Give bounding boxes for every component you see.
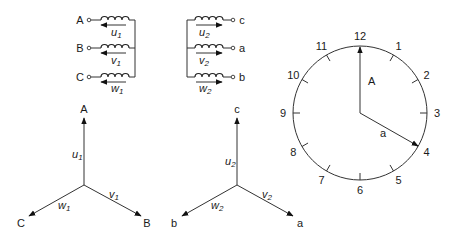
- clock-number-8: 8: [290, 146, 296, 158]
- svg-text:v2: v2: [199, 54, 210, 68]
- terminal-B: [87, 46, 91, 50]
- clock-number-4: 4: [424, 146, 430, 158]
- phasor-b-arrow: [182, 185, 237, 216]
- phasor-tip-c: c: [234, 103, 240, 115]
- svg-text:u2: u2: [225, 155, 236, 169]
- clock-hand-a: [360, 113, 418, 146]
- terminal-label-A: A: [76, 14, 84, 26]
- clock-number-11: 11: [316, 40, 327, 52]
- clock-number-5: 5: [395, 174, 401, 186]
- clock-tick: [327, 55, 331, 61]
- terminal-A: [87, 18, 91, 22]
- clock-number-7: 7: [318, 174, 324, 186]
- clock-number-12: 12: [354, 30, 366, 42]
- clock-tick: [390, 165, 394, 171]
- primary-windings: A u1 B v1 C w1: [76, 14, 135, 96]
- phasor-C-arrow: [29, 185, 84, 216]
- clock-hand-label-A: A: [368, 75, 376, 87]
- phasor-tip-A: A: [80, 103, 88, 115]
- secondary-winding-w2: b w2: [187, 71, 245, 96]
- clock-number-10: 10: [287, 69, 299, 81]
- clock-tick: [327, 165, 331, 171]
- phasor-tip-a: a: [297, 217, 304, 229]
- clock-hand-label-a: a: [380, 127, 387, 139]
- svg-text:v2: v2: [262, 188, 273, 202]
- terminal-b: [231, 75, 235, 79]
- svg-text:w2: w2: [211, 199, 224, 213]
- terminal-label-C: C: [76, 71, 84, 83]
- clock-tick: [412, 80, 418, 84]
- clock-number-6: 6: [357, 184, 363, 196]
- transformer-vector-group-diagram: A u1 B v1 C w1: [0, 0, 451, 241]
- svg-text:u2: u2: [199, 26, 210, 40]
- coil-icon: [195, 45, 223, 48]
- svg-text:w2: w2: [199, 82, 212, 96]
- secondary-phasor-diagram: c b a u2 v2 w2: [171, 103, 304, 229]
- terminal-label-B: B: [76, 42, 83, 54]
- terminal-C: [87, 75, 91, 79]
- clock-number-3: 3: [434, 107, 440, 119]
- svg-text:v1: v1: [109, 188, 119, 202]
- coil-icon: [101, 45, 129, 48]
- coil-icon: [195, 74, 223, 77]
- terminal-label-a: a: [239, 42, 246, 54]
- coil-icon: [101, 17, 129, 21]
- secondary-windings: c u2 a v2 b w2: [187, 14, 246, 96]
- terminal-label-c: c: [239, 14, 245, 26]
- primary-phasor-diagram: A C B u1 v1 w1: [17, 103, 151, 229]
- secondary-winding-v2: a v2: [187, 42, 246, 68]
- terminal-c: [231, 18, 235, 22]
- clock-number-1: 1: [395, 40, 401, 52]
- phasor-tip-b: b: [171, 217, 177, 229]
- clock-tick: [302, 143, 308, 147]
- clock-number-2: 2: [424, 69, 430, 81]
- phasor-tip-C: C: [17, 217, 25, 229]
- svg-text:w1: w1: [58, 199, 70, 213]
- phasor-tip-B: B: [143, 217, 150, 229]
- primary-winding-v1: B v1: [76, 42, 135, 68]
- primary-winding-u1: A u1: [76, 14, 135, 40]
- terminal-a: [231, 46, 235, 50]
- svg-text:u1: u1: [72, 148, 83, 162]
- primary-winding-w1: C w1: [76, 71, 135, 96]
- terminal-label-b: b: [239, 71, 245, 83]
- clock-face: 121234567891011 A a: [280, 30, 440, 196]
- svg-text:v1: v1: [111, 54, 121, 68]
- coil-icon: [195, 17, 223, 21]
- svg-text:u1: u1: [111, 26, 122, 40]
- clock-tick: [390, 55, 394, 61]
- clock-number-9: 9: [280, 107, 286, 119]
- coil-icon: [101, 74, 129, 77]
- clock-tick: [302, 80, 308, 84]
- svg-text:w1: w1: [111, 82, 123, 96]
- secondary-winding-u2: c u2: [187, 14, 245, 40]
